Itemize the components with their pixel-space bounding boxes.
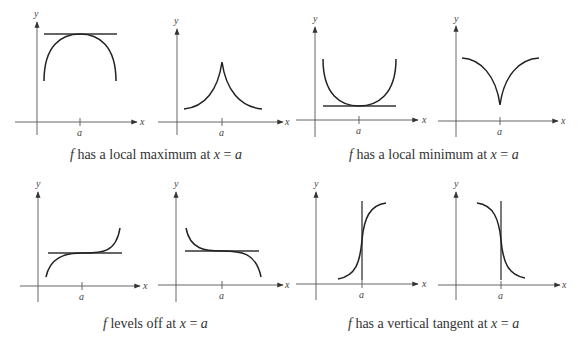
y-axis-label: y — [173, 15, 179, 26]
curve — [44, 34, 116, 81]
curve — [184, 62, 262, 109]
y-axis-label: y — [453, 178, 459, 189]
curve — [186, 228, 261, 277]
x-axis-label: x — [142, 280, 148, 291]
panel-local-max-cusp: x y a — [158, 15, 290, 138]
x-axis-label: x — [284, 116, 290, 127]
caption-levels-off: f levels off at x = a — [103, 316, 208, 332]
x-axis-label: x — [139, 116, 145, 127]
x-axis-label: x — [421, 114, 427, 125]
caption-local-minimum: f has a local minimum at x = a — [349, 147, 519, 163]
y-axis-label: y — [453, 13, 459, 24]
panel-levels-off-decreasing: x y a — [158, 178, 290, 302]
panel-local-min-smooth: x y a — [296, 13, 427, 137]
panel-vertical-tangent-increasing: x y a — [296, 178, 427, 300]
tick-label-a: a — [359, 289, 364, 300]
x-axis-label: x — [560, 115, 566, 126]
x-axis-label: x — [561, 279, 567, 290]
tick-label-a: a — [77, 127, 82, 138]
panel-vertical-tangent-decreasing: x y a — [438, 178, 567, 301]
caption-vertical-tangent: f has a vertical tangent at x = a — [348, 316, 519, 332]
tick-label-a: a — [497, 126, 502, 137]
y-axis-label: y — [35, 178, 41, 189]
y-axis-label: y — [312, 13, 318, 24]
curve — [462, 58, 539, 105]
panel-local-min-cusp: x y a — [438, 13, 566, 137]
curve — [323, 59, 396, 106]
y-axis-label: y — [313, 178, 319, 189]
x-axis-label: x — [421, 278, 427, 289]
critical-points-figure: x y a x y a x y a x y a — [0, 0, 585, 339]
tick-label-a: a — [356, 125, 361, 136]
y-axis-label: y — [173, 178, 179, 189]
tick-label-a: a — [219, 290, 224, 301]
tick-label-a: a — [219, 127, 224, 138]
y-axis-label: y — [33, 8, 39, 19]
caption-local-maximum: f has a local maximum at x = a — [70, 147, 242, 163]
panel-levels-off-increasing: x y a — [20, 178, 148, 302]
x-axis-label: x — [284, 279, 290, 290]
tick-label-a: a — [498, 290, 503, 301]
panel-local-max-smooth: x y a — [15, 8, 145, 138]
tick-label-a: a — [79, 291, 84, 302]
